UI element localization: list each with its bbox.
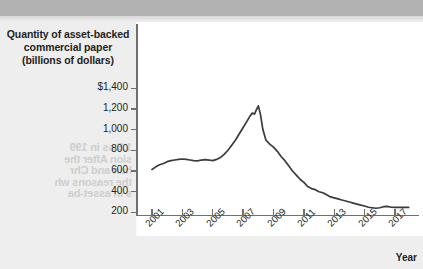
x-axis-tick bbox=[394, 209, 395, 215]
y-axis-tick bbox=[131, 129, 137, 130]
y-axis-tick bbox=[131, 88, 137, 89]
x-axis-tick bbox=[151, 209, 152, 215]
x-axis-tick bbox=[182, 209, 183, 215]
y-axis-tick bbox=[131, 170, 137, 171]
x-axis-tick bbox=[364, 209, 365, 215]
x-axis-tick bbox=[334, 209, 335, 215]
x-axis-tick bbox=[303, 209, 304, 215]
y-axis-tick bbox=[131, 150, 137, 151]
y-axis-tick bbox=[131, 108, 137, 109]
x-axis-tick bbox=[242, 209, 243, 215]
data-line-asset-backed-commercial-paper bbox=[152, 106, 409, 208]
series-layer bbox=[0, 0, 423, 269]
x-axis-title: Year bbox=[396, 252, 417, 263]
y-axis-tick bbox=[131, 191, 137, 192]
x-axis-tick bbox=[273, 209, 274, 215]
chart-figure: 1.5 ss in 199 sion After the han and Chr… bbox=[0, 0, 423, 269]
x-axis-tick bbox=[212, 209, 213, 215]
y-axis-tick bbox=[131, 212, 137, 213]
